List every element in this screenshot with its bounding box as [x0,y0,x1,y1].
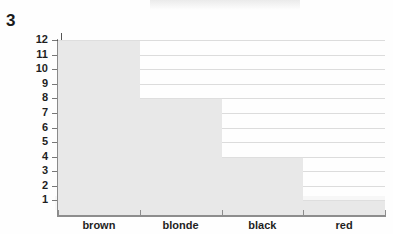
y-axis-tick [52,113,57,114]
y-axis-tick-label: 1 [26,194,48,205]
x-axis-tick [58,210,59,216]
y-axis-tick-label: 9 [26,78,48,89]
y-axis-tick-label: 11 [26,49,48,60]
scan-artifact-top [150,0,300,10]
y-axis-tick [52,186,57,187]
bar-black [222,157,303,215]
y-axis-tick [52,171,57,172]
bar-blonde [140,98,222,215]
y-axis-tick [52,98,57,99]
y-axis-tick [52,142,57,143]
x-axis-category-label-red: red [303,219,385,231]
plot-area [58,40,385,215]
y-axis-tick-label: 12 [26,34,48,45]
y-axis-labels: 121110987654321 [26,0,48,234]
y-axis-tick [52,69,57,70]
y-axis-tick-label: 2 [26,180,48,191]
y-axis-tick-label: 7 [26,107,48,118]
bar-brown [58,40,140,215]
x-axis-category-label-blonde: blonde [140,219,222,231]
y-axis-tick [52,200,57,201]
x-axis-tick [303,210,304,216]
y-axis-tick [52,40,57,41]
question-number: 3 [6,11,15,31]
bar-red [303,200,385,215]
y-axis-tick-label: 3 [26,165,48,176]
x-axis-category-label-brown: brown [58,219,140,231]
y-axis-tick-label: 10 [26,63,48,74]
y-axis-tick-label: 5 [26,136,48,147]
y-axis-tick-label: 6 [26,122,48,133]
x-axis-tick [385,210,386,216]
y-axis-tick [52,55,57,56]
y-axis-tick-label: 8 [26,92,48,103]
x-axis-tick [140,210,141,216]
y-axis-tick-label: 4 [26,151,48,162]
y-axis-tick [52,157,57,158]
y-axis-tick [52,84,57,85]
x-axis-tick [222,210,223,216]
chart-page: 3 121110987654321 brownblondeblackred [0,0,393,234]
y-axis-tick [52,128,57,129]
x-axis-category-label-black: black [222,219,304,231]
